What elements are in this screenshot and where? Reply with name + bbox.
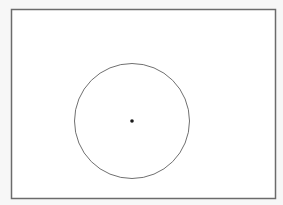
center-point [130,119,134,123]
diagram-canvas [0,0,283,205]
outer-rectangle [12,10,276,199]
